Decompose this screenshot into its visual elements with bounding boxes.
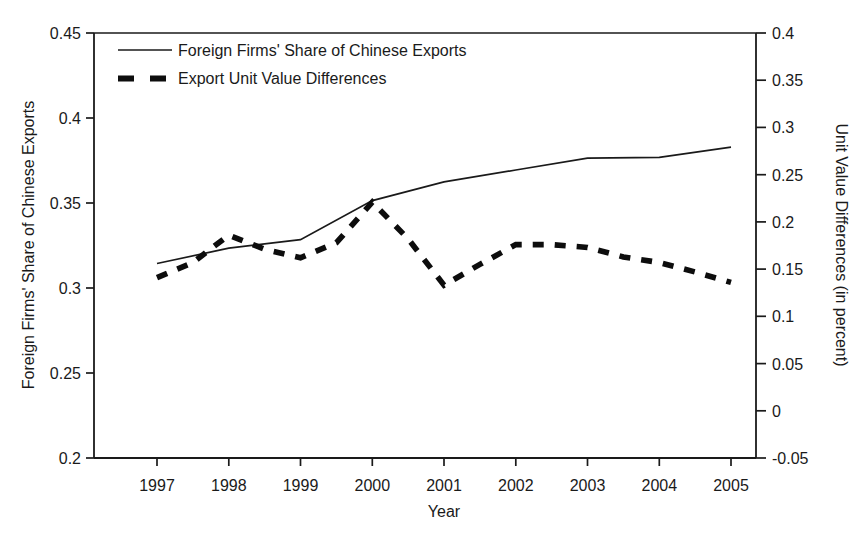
y-left-ticks bbox=[86, 33, 94, 458]
x-ticks bbox=[157, 458, 731, 466]
y-right-tick-label: 0.1 bbox=[772, 308, 794, 325]
y-left-tick-label: 0.4 bbox=[59, 110, 81, 127]
legend-label-foreign-firms-share: Foreign Firms' Share of Chinese Exports bbox=[178, 42, 467, 59]
x-tick-label: 2001 bbox=[426, 477, 462, 494]
x-tick-label: 1999 bbox=[283, 477, 319, 494]
x-tick-label: 2000 bbox=[355, 477, 391, 494]
y-right-tick-label: 0.2 bbox=[772, 214, 794, 231]
x-tick-label: 2005 bbox=[713, 477, 749, 494]
y-right-ticks bbox=[756, 33, 766, 458]
x-tick-label: 2003 bbox=[570, 477, 606, 494]
chart-figure: 0.2 0.25 0.3 0.35 0.4 0.45 bbox=[0, 0, 867, 544]
y-left-tick-label: 0.35 bbox=[50, 195, 81, 212]
y-left-tick-labels: 0.2 0.25 0.3 0.35 0.4 0.45 bbox=[50, 25, 81, 467]
y-right-tick-label: 0.15 bbox=[772, 261, 803, 278]
y-left-tick-label: 0.2 bbox=[59, 450, 81, 467]
y-right-tick-labels: -0.05 0 0.05 0.1 0.15 0.2 0.25 0.3 0.35 … bbox=[772, 25, 809, 467]
legend-label-export-unit-value-differences: Export Unit Value Differences bbox=[178, 70, 386, 87]
x-tick-label: 1998 bbox=[211, 477, 247, 494]
chart-legend: Foreign Firms' Share of Chinese Exports … bbox=[118, 42, 467, 87]
y-right-tick-label: 0.35 bbox=[772, 72, 803, 89]
x-axis-title: Year bbox=[428, 503, 461, 520]
y-right-axis-title: Unit Value Differences (in percent) bbox=[833, 123, 850, 366]
plot-frame bbox=[94, 33, 756, 458]
series-foreign-firms-share-line bbox=[157, 147, 731, 263]
y-right-tick-label: -0.05 bbox=[772, 450, 809, 467]
chart-canvas: 0.2 0.25 0.3 0.35 0.4 0.45 bbox=[0, 0, 867, 544]
legend-marker-dashed-line bbox=[118, 76, 166, 82]
x-tick-label: 2004 bbox=[642, 477, 678, 494]
x-tick-labels: 1997 1998 1999 2000 2001 2002 2003 2004 … bbox=[139, 477, 749, 494]
y-left-axis-title: Foreign Firms' Share of Chinese Exports bbox=[20, 101, 37, 390]
y-right-tick-label: 0.3 bbox=[772, 119, 794, 136]
y-right-tick-label: 0.05 bbox=[772, 356, 803, 373]
y-right-tick-label: 0 bbox=[772, 403, 781, 420]
y-right-tick-label: 0.4 bbox=[772, 25, 794, 42]
dual-axis-line-chart: 0.2 0.25 0.3 0.35 0.4 0.45 bbox=[0, 0, 867, 544]
x-tick-label: 1997 bbox=[139, 477, 175, 494]
y-right-tick-label: 0.25 bbox=[772, 167, 803, 184]
y-left-tick-label: 0.45 bbox=[50, 25, 81, 42]
y-left-tick-label: 0.3 bbox=[59, 280, 81, 297]
x-tick-label: 2002 bbox=[498, 477, 534, 494]
y-left-tick-label: 0.25 bbox=[50, 365, 81, 382]
series-export-unit-value-differences-line bbox=[157, 202, 731, 285]
